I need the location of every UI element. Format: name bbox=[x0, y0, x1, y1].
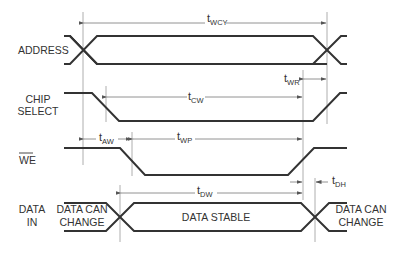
timing-diagram: tWCY tWR tCW tAW tWP tDW tDH ADDRESS CHI… bbox=[0, 0, 397, 256]
label-taw: tAW bbox=[99, 131, 115, 146]
signal-label-we: WE bbox=[19, 154, 36, 166]
label-twcy: tWCY bbox=[207, 12, 228, 27]
signal-label-in: IN bbox=[27, 216, 38, 228]
label-tdw: tDW bbox=[197, 184, 213, 199]
signal-label-address: ADDRESS bbox=[18, 44, 69, 56]
data-can-change-right-line2: CHANGE bbox=[339, 216, 384, 228]
data-can-change-left-line1: DATA CAN bbox=[57, 203, 108, 215]
label-twp: tWP bbox=[177, 130, 192, 145]
signal-label-data: DATA bbox=[19, 203, 45, 215]
label-tdh: tDH bbox=[332, 174, 346, 189]
data-stable-label: DATA STABLE bbox=[182, 211, 250, 223]
signal-label-chip: CHIP bbox=[25, 93, 50, 105]
label-tcw: tCW bbox=[188, 90, 204, 105]
data-can-change-left-line2: CHANGE bbox=[60, 216, 105, 228]
reference-lines bbox=[83, 12, 327, 242]
data-can-change-right-line1: DATA CAN bbox=[336, 203, 387, 215]
signal-label-select: SELECT bbox=[18, 105, 59, 117]
label-twr: tWR bbox=[284, 72, 300, 87]
address-waveform bbox=[64, 36, 347, 64]
we-waveform bbox=[64, 148, 347, 175]
